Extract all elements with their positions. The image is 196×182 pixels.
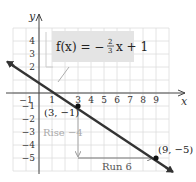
rise-label: Rise −4 — [43, 127, 83, 138]
point-label-3-neg1: (3, −1) — [44, 107, 79, 118]
run-label: Run 6 — [102, 161, 132, 172]
y-tick-label: −3 — [22, 127, 36, 137]
y-tick-label: −1 — [22, 101, 35, 111]
x-tick-labels: −113456789 — [19, 95, 159, 105]
x-tick-label: 6 — [114, 95, 120, 105]
equation-denominator: 3 — [108, 47, 112, 55]
y-tick-label: −5 — [22, 153, 36, 163]
x-tick-label: 4 — [88, 95, 94, 105]
y-tick-label: −4 — [22, 140, 36, 150]
equation-box: f(x) = − 2 3 x + 1 — [46, 31, 148, 82]
x-tick-label: 9 — [153, 95, 159, 105]
x-tick-label: 7 — [127, 95, 133, 105]
x-tick-label: 8 — [140, 95, 146, 105]
y-axis-label: y — [28, 10, 36, 23]
y-tick-label: −2 — [22, 114, 35, 124]
equation-rhs: x + 1 — [116, 40, 148, 54]
x-tick-label: 5 — [101, 95, 107, 105]
y-tick-label: 3 — [29, 49, 35, 59]
x-axis-label: x — [181, 95, 188, 108]
equation-numerator: 2 — [108, 38, 112, 46]
line-graph: f(x) = − 2 3 x + 1 x y −113456789 432−1−… — [0, 0, 196, 182]
equation-lhs: f(x) = − — [56, 40, 104, 54]
y-tick-label: 2 — [29, 62, 35, 72]
point-9-neg5 — [153, 155, 158, 160]
point-label-9-neg5: (9, −5) — [158, 144, 193, 155]
y-tick-label: 4 — [29, 36, 35, 46]
x-tick-label: 1 — [49, 95, 55, 105]
